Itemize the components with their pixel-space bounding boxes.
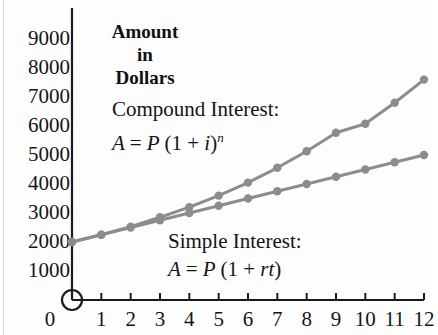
data-point-marker (215, 202, 223, 210)
compound-formula-p: P (147, 131, 159, 155)
simple-formula-rt: rt (260, 257, 274, 281)
data-point-marker (156, 216, 164, 224)
data-point-marker (361, 165, 369, 173)
data-point-marker (303, 147, 311, 155)
data-point-marker (391, 99, 399, 107)
data-point-marker (332, 129, 340, 137)
data-point-marker (68, 238, 76, 246)
simple-interest-annotation: Simple Interest: A = P (1 + rt) (168, 228, 302, 283)
data-point-marker (361, 120, 369, 128)
compound-formula-a: A (112, 131, 124, 155)
simple-formula-a: A (168, 257, 180, 281)
data-point-marker (185, 209, 193, 217)
data-point-marker (97, 231, 105, 239)
data-point-marker (273, 164, 281, 172)
compound-formula-equals: = (130, 131, 142, 155)
simple-interest-label: Simple Interest: (168, 228, 302, 255)
data-point-marker (244, 178, 252, 186)
compound-formula-open: (1 (165, 131, 183, 155)
simple-formula-plus: + (243, 257, 255, 281)
data-point-marker (127, 223, 135, 231)
compound-interest-annotation: Compound Interest: A = P (1 + i)n (112, 96, 279, 157)
simple-formula-equals: = (186, 257, 198, 281)
simple-formula-open: (1 (221, 257, 239, 281)
simple-formula-close: ) (274, 257, 281, 281)
data-point-marker (273, 187, 281, 195)
data-point-marker (420, 151, 428, 159)
compound-interest-formula: A = P (1 + i)n (112, 124, 279, 157)
compound-formula-exponent: n (217, 130, 224, 145)
data-point-marker (332, 173, 340, 181)
compound-formula-plus: + (187, 131, 199, 155)
compound-interest-label: Compound Interest: (112, 96, 279, 123)
x-axis-tick-label: 12 (406, 309, 438, 330)
data-point-marker (215, 191, 223, 199)
data-point-marker (303, 180, 311, 188)
x-axis-tick-label: 0 (32, 309, 68, 330)
simple-interest-formula: A = P (1 + rt) (168, 256, 302, 283)
data-point-marker (420, 75, 428, 83)
simple-formula-p: P (203, 257, 215, 281)
data-point-marker (244, 194, 252, 202)
data-point-marker (391, 158, 399, 166)
